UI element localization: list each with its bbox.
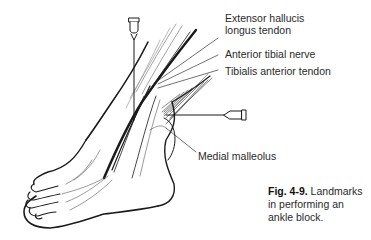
label-extensor-hallucis-longus: Extensor hallucis longus tendon: [225, 12, 304, 36]
syringe-top-icon: [129, 18, 139, 120]
label-medial-malleolus: Medial malleolus: [198, 150, 276, 162]
label-line: longus tendon: [225, 24, 304, 36]
label-line: Extensor hallucis: [225, 12, 304, 24]
toes: [26, 184, 60, 219]
leg-anterior-outline: [86, 42, 148, 140]
label-tibialis-anterior-tendon: Tibialis anterior tendon: [225, 65, 331, 77]
figure-caption: Fig. 4-9. Landmarks in performing an ank…: [268, 185, 371, 224]
ankle-block-figure: Extensor hallucis longus tendon Anterior…: [0, 0, 371, 240]
label-anterior-tibial-nerve: Anterior tibial nerve: [225, 48, 315, 60]
foot-sole: [24, 196, 158, 228]
caption-number: Fig. 4-9.: [268, 185, 308, 197]
